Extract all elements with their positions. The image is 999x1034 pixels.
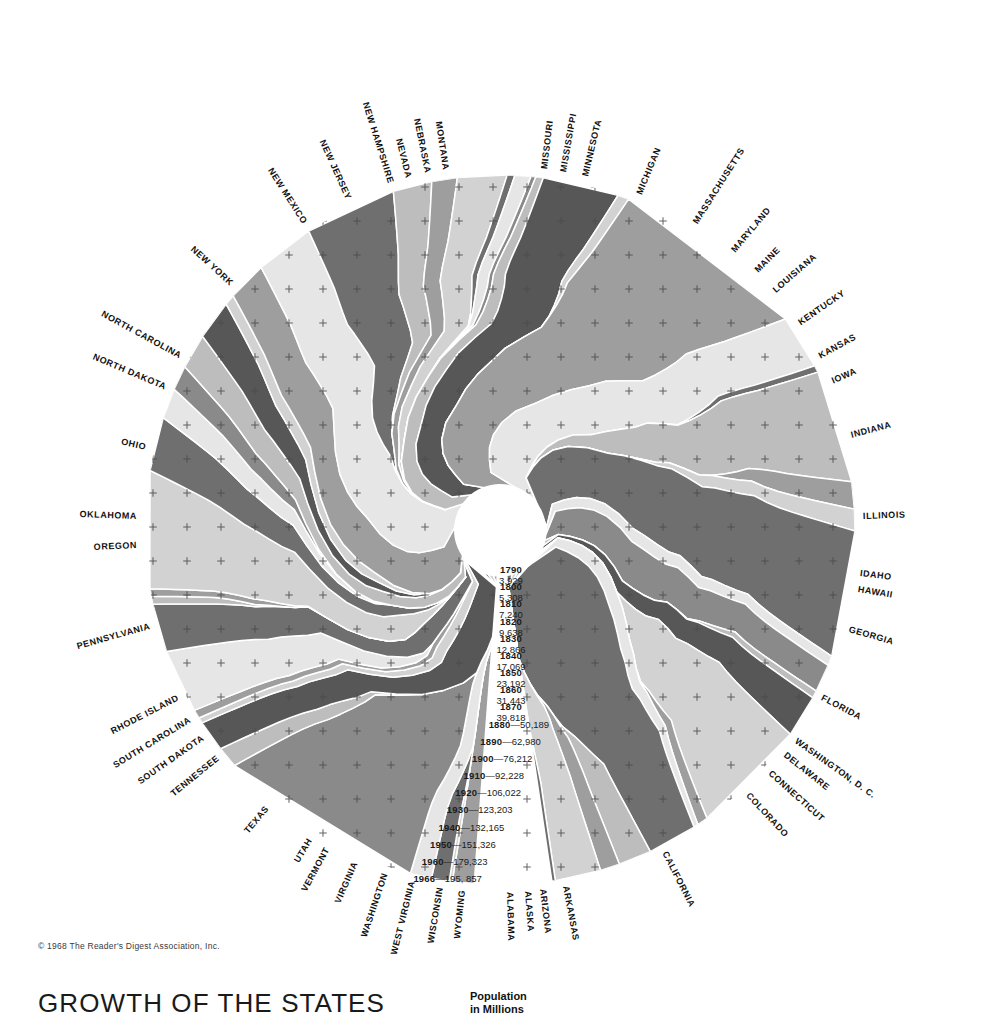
copyright-notice: © 1968 The Reader's Digest Association, … [38, 941, 220, 951]
page-title: GROWTH OF THE STATES [38, 988, 385, 1019]
population-caption: Population in Millions [470, 990, 527, 1016]
state-label-oregon[interactable]: OREGON [94, 540, 138, 552]
poster-root: 17903,92918005,30818107,24018209,6381830… [0, 0, 999, 1034]
growth-of-the-states-radial-chart [0, 0, 999, 1034]
population-caption-line2: in Millions [470, 1003, 527, 1016]
population-caption-line1: Population [470, 990, 527, 1003]
state-label-alabama[interactable]: ALABAMA [505, 892, 516, 942]
state-label-illinois[interactable]: ILLINOIS [863, 510, 906, 521]
